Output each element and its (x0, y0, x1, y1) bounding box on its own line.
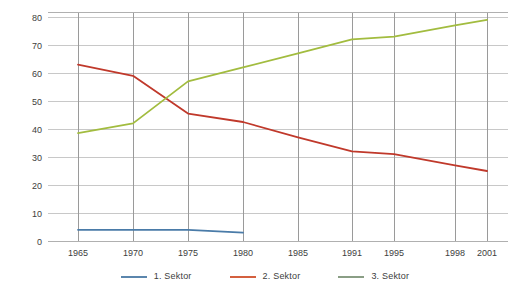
y-tick-label: 10 (32, 209, 42, 219)
legend-swatch-icon (121, 276, 147, 278)
legend-item[interactable]: 1. Sektor (121, 272, 192, 281)
x-tick-label: 2001 (477, 248, 497, 258)
chart-container: 01020304050607080 1965197019751980198519… (0, 0, 530, 299)
vertical-gridlines (79, 12, 488, 241)
y-tick-label: 70 (32, 41, 42, 51)
x-axis-tick-labels: 196519701975198019851991199519982001 (68, 248, 497, 258)
y-tick-label: 50 (32, 97, 42, 107)
legend-item[interactable]: 2. Sektor (230, 272, 301, 281)
x-tick-label: 1998 (445, 248, 465, 258)
x-tick-label: 1991 (342, 248, 362, 258)
x-tick-label: 1970 (123, 248, 143, 258)
chart-legend: 1. Sektor2. Sektor3. Sektor (0, 272, 530, 281)
x-tick-label: 1965 (68, 248, 88, 258)
x-tick-label: 1985 (288, 248, 308, 258)
y-axis-tick-labels: 01020304050607080 (32, 13, 42, 247)
legend-label: 3. Sektor (371, 272, 409, 281)
legend-label: 1. Sektor (154, 272, 192, 281)
horizontal-gridlines (48, 18, 508, 242)
legend-item[interactable]: 3. Sektor (338, 272, 409, 281)
data-series-group (78, 20, 487, 233)
y-tick-label: 60 (32, 69, 42, 79)
series-line-1-sektor (78, 230, 243, 233)
x-tick-label: 1975 (178, 248, 198, 258)
line-chart-svg: 01020304050607080 1965197019751980198519… (0, 0, 530, 299)
plot-area: 01020304050607080 1965197019751980198519… (0, 0, 530, 299)
x-tick-label: 1980 (233, 248, 253, 258)
series-line-3-sektor (78, 20, 487, 133)
y-tick-label: 40 (32, 125, 42, 135)
y-tick-label: 80 (32, 13, 42, 23)
x-tick-label: 1995 (384, 248, 404, 258)
legend-label: 2. Sektor (263, 272, 301, 281)
legend-swatch-icon (230, 276, 256, 278)
y-tick-label: 20 (32, 181, 42, 191)
y-tick-label: 30 (32, 153, 42, 163)
legend-swatch-icon (338, 276, 364, 278)
y-tick-label: 0 (37, 237, 42, 247)
